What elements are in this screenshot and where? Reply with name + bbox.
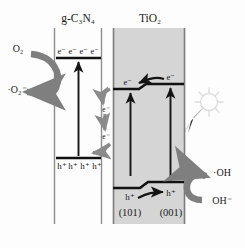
gcn-cb-electron-2: e⁻ (69, 46, 78, 56)
label-hydroxyl-radical: ·OH (213, 167, 231, 178)
label-gcn-material: g-C₃N₄ (61, 12, 95, 25)
gcn-cb-electron-3: e⁻ (80, 46, 89, 56)
cascade-arrow-2 (104, 114, 105, 130)
gcn-vb-hole-4: h⁺ (92, 161, 102, 171)
cascade-electron-2: e⁻ (102, 132, 109, 141)
tio2-cb-electron-001: e⁻ (167, 72, 176, 82)
label-oxygen-reactant: O₂ (13, 43, 24, 54)
facet-label-001: (001) (160, 207, 183, 219)
facet-label-101: (101) (119, 207, 142, 219)
gcn-vb-hole-1: h⁺ (57, 161, 67, 171)
label-hydroxide-reactant: OH⁻ (212, 195, 231, 206)
gcn-cb-electron-1: e⁻ (58, 46, 67, 56)
label-superoxide-product: ·O₂⁻ (7, 84, 26, 95)
gcn-cb-electron-4: e⁻ (91, 46, 100, 56)
tio2-vb-hole-101: h⁺ (125, 192, 135, 202)
tio2-vb-hole-001: h⁺ (166, 188, 176, 198)
tio2-cb-electron-101: e⁻ (124, 77, 133, 87)
photocatalysis-band-diagram: g-C₃N₄ TiO₂ e⁻ e⁻ e⁻ e⁻ h⁺ h⁺ h⁺ h⁺ O₂ ·… (0, 0, 245, 248)
label-tio2-material: TiO₂ (139, 12, 161, 24)
gcn-vb-hole-3: h⁺ (80, 161, 90, 171)
gcn-vb-hole-2: h⁺ (68, 161, 78, 171)
cascade-electron-1: e⁻ (102, 105, 109, 114)
